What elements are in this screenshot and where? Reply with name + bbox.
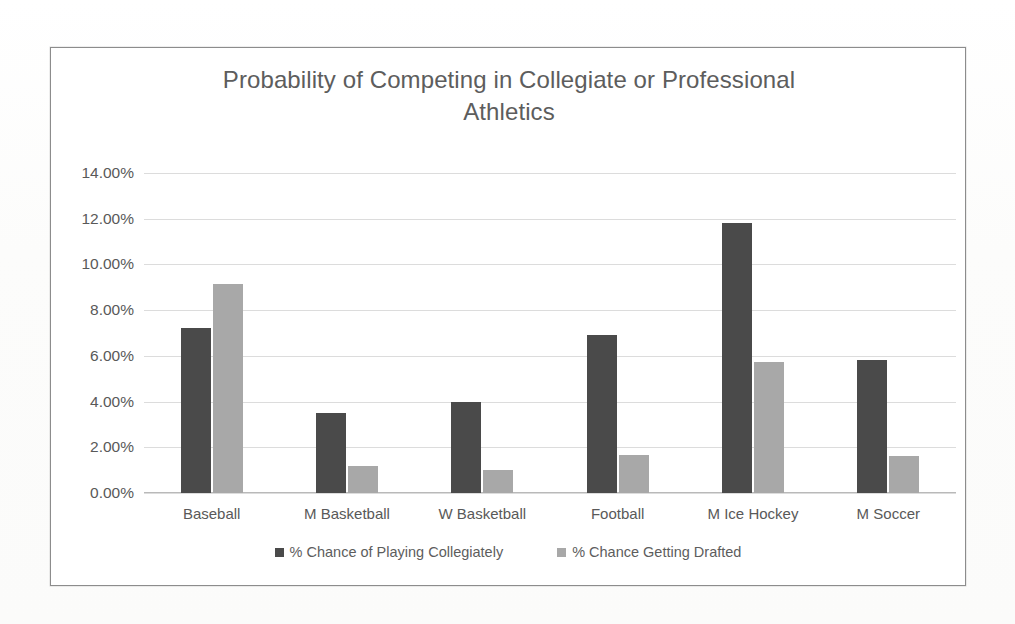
bar-group: M Ice Hockey bbox=[685, 173, 820, 493]
bar-group: Baseball bbox=[144, 173, 279, 493]
bar-drafted[interactable] bbox=[213, 284, 243, 493]
bar-collegiately[interactable] bbox=[857, 360, 887, 493]
y-axis-tick-label: 4.00% bbox=[90, 393, 134, 411]
bar-drafted[interactable] bbox=[619, 455, 649, 493]
y-axis-tick-label: 2.00% bbox=[90, 438, 134, 456]
page-background: Probability of Competing in Collegiate o… bbox=[0, 0, 1015, 624]
x-axis-tick-label: M Ice Hockey bbox=[708, 505, 799, 522]
y-axis-tick-label: 0.00% bbox=[90, 484, 134, 502]
bar-collegiately[interactable] bbox=[722, 223, 752, 493]
y-axis-tick-label: 14.00% bbox=[81, 164, 134, 182]
bar-drafted[interactable] bbox=[889, 456, 919, 493]
bar-group: M Basketball bbox=[279, 173, 414, 493]
x-axis-tick-label: Football bbox=[591, 505, 644, 522]
legend-item[interactable]: % Chance of Playing Collegiately bbox=[275, 544, 504, 560]
bar-collegiately[interactable] bbox=[451, 402, 481, 493]
bar-group: Football bbox=[550, 173, 685, 493]
bar-collegiately[interactable] bbox=[181, 328, 211, 493]
legend-label: % Chance of Playing Collegiately bbox=[290, 544, 504, 560]
plot-area: 14.00%12.00%10.00%8.00%6.00%4.00%2.00%0.… bbox=[144, 173, 956, 493]
bar-drafted[interactable] bbox=[348, 466, 378, 493]
chart-frame: Probability of Competing in Collegiate o… bbox=[50, 47, 966, 586]
x-axis-tick-label: M Soccer bbox=[857, 505, 920, 522]
y-axis-tick-label: 8.00% bbox=[90, 301, 134, 319]
chart-title: Probability of Competing in Collegiate o… bbox=[111, 64, 907, 128]
bar-drafted[interactable] bbox=[754, 362, 784, 493]
bar-collegiately[interactable] bbox=[316, 413, 346, 493]
bar-groups: BaseballM BasketballW BasketballFootball… bbox=[144, 173, 956, 493]
bar-group: W Basketball bbox=[415, 173, 550, 493]
bar-drafted[interactable] bbox=[483, 470, 513, 493]
legend-swatch-icon bbox=[275, 548, 284, 557]
y-axis-tick-label: 6.00% bbox=[90, 347, 134, 365]
chart-legend: % Chance of Playing Collegiately% Chance… bbox=[51, 544, 965, 560]
legend-swatch-icon bbox=[557, 548, 566, 557]
y-axis-tick-label: 12.00% bbox=[81, 210, 134, 228]
x-axis-tick-label: M Basketball bbox=[304, 505, 390, 522]
legend-item[interactable]: % Chance Getting Drafted bbox=[557, 544, 741, 560]
bar-collegiately[interactable] bbox=[587, 335, 617, 493]
y-axis-tick-label: 10.00% bbox=[81, 255, 134, 273]
gridline bbox=[144, 493, 956, 494]
x-axis-tick-label: Baseball bbox=[183, 505, 241, 522]
bar-group: M Soccer bbox=[821, 173, 956, 493]
x-axis-tick-label: W Basketball bbox=[439, 505, 527, 522]
legend-label: % Chance Getting Drafted bbox=[572, 544, 741, 560]
